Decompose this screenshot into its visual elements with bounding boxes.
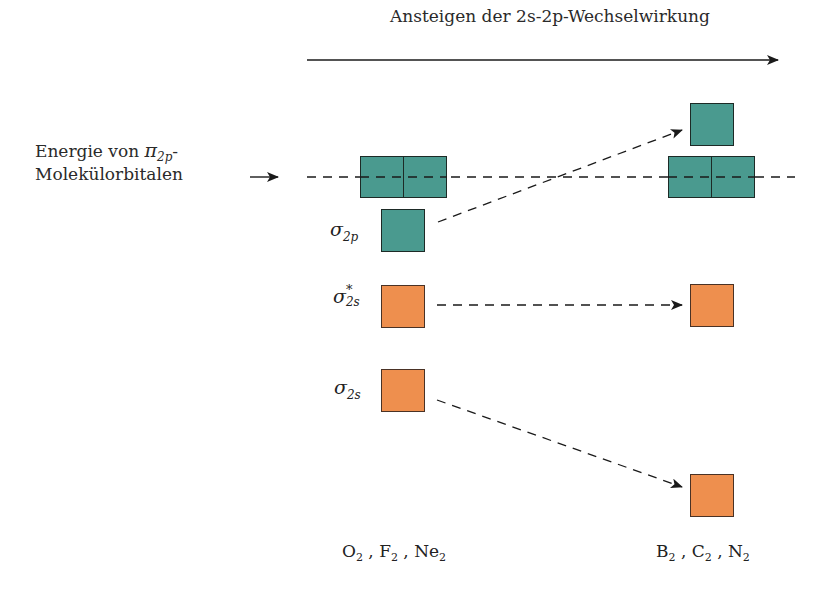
pi-dashed-overlay [0,0,835,591]
left-molecules-label: O2 , F2 , Ne2 [342,541,446,564]
sigma-star-2s-label: σ*2s [333,285,360,310]
sigma2s-label: σ2s [334,376,361,402]
right-molecules-label: B2 , C2 , N2 [656,541,750,564]
sigma2p-label: σ2p [330,218,358,244]
